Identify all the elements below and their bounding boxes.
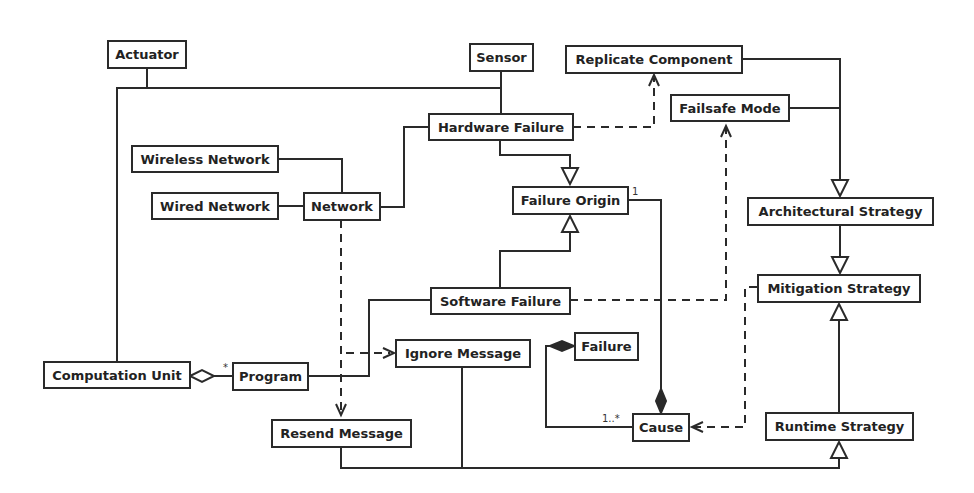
multiplicity-program: * <box>223 362 228 373</box>
edge-software-failureorigin <box>500 232 570 287</box>
class-hardware-failure: Hardware Failure <box>428 113 574 141</box>
class-network: Network <box>303 192 381 221</box>
composition-diamond-icon <box>550 341 574 351</box>
dependency-hardware-replicate <box>573 78 654 127</box>
class-wireless-network: Wireless Network <box>131 145 279 173</box>
multiplicity-cause: 1..* <box>602 413 620 424</box>
class-runtime-strategy: Runtime Strategy <box>765 412 914 441</box>
class-wired-network: Wired Network <box>151 192 279 220</box>
class-cause: Cause <box>632 413 690 442</box>
class-architectural-strategy: Architectural Strategy <box>747 197 934 226</box>
class-failure: Failure <box>574 332 639 361</box>
class-mitigation-strategy: Mitigation Strategy <box>757 274 921 303</box>
multiplicity-failure-origin: 1 <box>632 186 638 197</box>
class-failure-origin: Failure Origin <box>512 186 629 215</box>
edge-hardware-failureorigin <box>500 140 570 168</box>
generalization-arrow-icon <box>832 257 848 273</box>
generalization-arrow-icon <box>832 180 848 196</box>
class-software-failure: Software Failure <box>430 287 571 315</box>
class-computation-unit: Computation Unit <box>43 361 191 389</box>
aggregation-diamond-icon <box>190 370 214 382</box>
composition-diamond-icon <box>656 389 666 413</box>
generalization-arrow-icon <box>562 216 578 232</box>
generalization-arrow-icon <box>831 304 847 320</box>
class-actuator: Actuator <box>107 40 187 69</box>
class-ignore-message: Ignore Message <box>395 339 531 368</box>
class-resend-message: Resend Message <box>271 419 412 448</box>
dependency-mitigation-cause <box>694 287 757 427</box>
class-replicate-component: Replicate Component <box>565 45 743 74</box>
generalization-arrow-icon <box>831 442 847 458</box>
class-sensor: Sensor <box>469 43 534 72</box>
edge-wireless-network <box>278 159 342 192</box>
edge-network-hardware <box>380 127 428 207</box>
class-failsafe-mode: Failsafe Mode <box>670 94 790 122</box>
generalization-arrow-icon <box>562 168 578 184</box>
edge-resend-runtime <box>341 447 839 468</box>
class-program: Program <box>232 362 309 391</box>
